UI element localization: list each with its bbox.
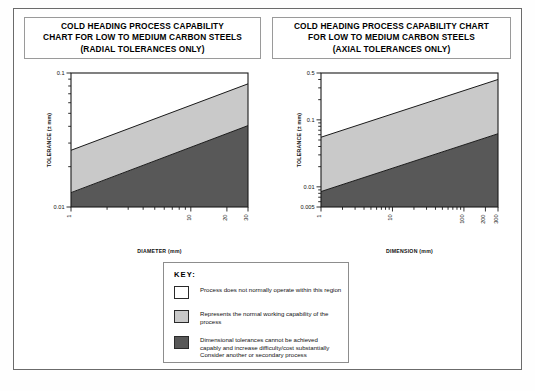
svg-text:DIAMETER (mm): DIAMETER (mm) [137, 248, 181, 254]
chart-title-radial-line-1: COLD HEADING PROCESS CAPABILITY [43, 21, 242, 32]
key-swatch-light-gray [174, 310, 189, 323]
key-item-white: Process does not normally operate within… [174, 286, 341, 299]
chart-title-axial-line-2: FOR LOW TO MEDIUM CARBON STEELS [294, 32, 489, 43]
key-item-light-gray: Represents the normal working capability… [174, 310, 328, 325]
key-text-light-gray: Represents the normal working capability… [200, 310, 328, 325]
key-swatch-white [174, 286, 189, 299]
key-text-dark-gray-line-3: Consider another or secondary process [200, 351, 329, 359]
svg-text:100: 100 [459, 215, 465, 224]
chart-radial-plot: 0.010.11102030DIAMETER (mm)TOLERANCE (± … [24, 63, 261, 255]
svg-text:300: 300 [493, 215, 499, 224]
key-box: KEY: Process does not normally operate w… [163, 262, 349, 363]
svg-text:30: 30 [243, 215, 249, 221]
chart-title-axial-line-1: COLD HEADING PROCESS CAPABILITY CHART [294, 21, 489, 32]
svg-text:0.1: 0.1 [57, 70, 65, 76]
key-text-white-line-1: Process does not normally operate within… [200, 286, 341, 294]
svg-text:0.5: 0.5 [307, 70, 315, 76]
capability-chart-page: COLD HEADING PROCESS CAPABILITY CHART FO… [0, 0, 535, 391]
svg-text:0.005: 0.005 [301, 204, 315, 210]
chart-title-axial-line-3: (AXIAL TOLERANCES ONLY) [294, 44, 489, 55]
svg-text:1: 1 [66, 215, 72, 218]
svg-text:20: 20 [222, 215, 228, 221]
svg-text:DIMENSION (mm): DIMENSION (mm) [386, 248, 433, 254]
svg-text:10: 10 [186, 215, 192, 221]
chart-axial: 0.0050.010.10.5110100200300DIMENSION (mm… [272, 63, 511, 255]
svg-text:10: 10 [387, 215, 393, 221]
svg-text:200: 200 [480, 215, 486, 224]
svg-text:0.01: 0.01 [304, 184, 315, 190]
svg-text:0.1: 0.1 [307, 117, 315, 123]
svg-text:1: 1 [316, 215, 322, 218]
key-swatch-dark-gray [174, 336, 189, 349]
svg-text:TOLERANCE (± mm): TOLERANCE (± mm) [46, 113, 52, 168]
key-text-dark-gray: Dimensional tolerances cannot be achieve… [200, 336, 329, 359]
chart-title-radial-line-3: (RADIAL TOLERANCES ONLY) [43, 44, 242, 55]
svg-text:0.01: 0.01 [54, 204, 65, 210]
svg-text:TOLERANCE (± mm): TOLERANCE (± mm) [296, 113, 302, 168]
chart-title-radial-line-2: CHART FOR LOW TO MEDIUM CARBON STEELS [43, 32, 242, 43]
key-text-dark-gray-line-1: Dimensional tolerances cannot be achieve… [200, 336, 329, 344]
key-text-light-gray-line-1: Represents the normal working capability… [200, 310, 328, 318]
key-text-white: Process does not normally operate within… [200, 286, 341, 294]
key-title: KEY: [174, 270, 196, 279]
chart-radial: 0.010.11102030DIAMETER (mm)TOLERANCE (± … [24, 63, 261, 255]
chart-title-radial: COLD HEADING PROCESS CAPABILITY CHART FO… [24, 17, 261, 59]
key-text-light-gray-line-2: process [200, 318, 328, 326]
key-text-dark-gray-line-2: capably and increase difficulty/cost sub… [200, 344, 329, 352]
chart-axial-plot: 0.0050.010.10.5110100200300DIMENSION (mm… [272, 63, 511, 255]
chart-title-axial: COLD HEADING PROCESS CAPABILITY CHART FO… [272, 17, 511, 59]
key-item-dark-gray: Dimensional tolerances cannot be achieve… [174, 336, 329, 359]
